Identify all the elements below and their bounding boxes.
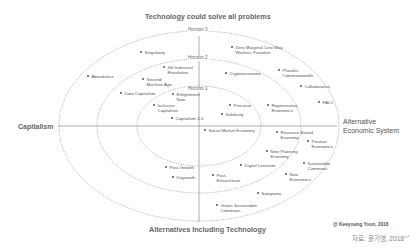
bullet-icon <box>171 117 173 119</box>
item-resource-based-economy: Resource BasedEconomy <box>276 131 313 140</box>
axis-right-label-line2: Economic System <box>343 127 399 134</box>
item-abundance: Abundance <box>87 75 114 80</box>
item-inclusive-capitalism: InclusiveCapitalism <box>153 104 178 113</box>
bullet-icon <box>87 75 89 77</box>
item-second-machine-age: SecondMachine Age <box>142 78 172 87</box>
credit-text: @ Keeyoung Yoon, 2018 <box>333 222 388 227</box>
item-singularity: Singularity <box>140 51 165 56</box>
bullet-icon <box>140 51 142 53</box>
item-enlightenment-now: EnlightmentNow <box>172 93 200 102</box>
item-digital-leninism: Digital Leninism <box>240 164 276 169</box>
bullet-icon <box>212 174 214 176</box>
bullet-icon <box>229 104 231 106</box>
bullet-icon <box>216 204 218 206</box>
item-solidarity: Solidarity <box>221 113 244 118</box>
bullet-icon <box>172 176 174 178</box>
item-post-growth: Post-Growth <box>165 166 194 171</box>
item-falc: FALC <box>318 101 333 106</box>
bullet-icon <box>225 72 227 74</box>
item-cryptoeconomic: Cryptoeconomic <box>225 72 261 77</box>
item-satoyama: Satoyama <box>257 192 281 197</box>
item-pluralist-commonwealth: PluralistCommonwealth <box>278 69 313 78</box>
bullet-icon <box>278 69 280 71</box>
axis-right-label-line1: Alternative <box>343 118 376 125</box>
bullet-icon <box>120 92 122 94</box>
item-new-planning-economy: New PlanningEconomy <box>266 150 298 159</box>
bullet-icon <box>172 93 174 95</box>
bullet-icon <box>303 162 305 164</box>
bullet-icon <box>276 131 278 133</box>
horizon-3-label: Horizon 3 <box>187 28 209 33</box>
bullet-icon <box>267 104 269 106</box>
bullet-icon <box>307 140 309 142</box>
item-social-market-economy: Social Market Economy <box>204 129 255 134</box>
axis-left-label: Capitalism <box>18 123 53 130</box>
item-zero-marginal-cost: Zero Marginal Cost WayWorkers Paradise <box>231 46 283 55</box>
bullet-icon <box>285 173 287 175</box>
bullet-icon <box>204 129 206 131</box>
item-positive-economics: PositiveEconomics <box>307 140 333 149</box>
item-data-capitalism: Data Capitalism <box>120 92 156 97</box>
item-regenerative-economics: RegenerativeEconomics <box>267 104 298 113</box>
horizon-2-label: Horizon 2 <box>187 56 209 61</box>
item-sustainable-commons: SustainableCommons <box>303 162 330 171</box>
item-precariat: Precariat <box>229 104 251 109</box>
bullet-icon <box>163 66 165 68</box>
diagram-canvas: Technology could solve all problems Alte… <box>0 0 416 250</box>
item-green-sustainable-commons: Green SustainableCommons <box>216 204 257 213</box>
title-bottom: Alternatives Including Technology <box>149 226 266 234</box>
item-capitalism-4-0: Capitalism 4.0 <box>171 117 203 122</box>
bullet-icon <box>153 104 155 106</box>
item-collaborative: Collaborative <box>300 85 330 90</box>
bullet-icon <box>318 101 320 103</box>
bullet-icon <box>221 113 223 115</box>
item-4th-industrial-revolution: 4th IndustrialRevolution <box>163 66 193 75</box>
bullet-icon <box>142 78 144 80</box>
bullet-icon <box>165 166 167 168</box>
bullet-icon <box>231 46 233 48</box>
title-top: Technology could solve all problems <box>145 13 271 21</box>
item-post-extractivism: Post-Extractivism <box>212 174 240 183</box>
item-new-economics: NewEconomics <box>285 173 311 182</box>
bullet-icon <box>266 150 268 152</box>
source-text: 자료: 윤기영, 2018SoF <box>352 236 410 243</box>
bullet-icon <box>300 85 302 87</box>
bullet-icon <box>240 164 242 166</box>
item-degrowth: Degrowth <box>172 176 195 181</box>
bullet-icon <box>257 192 259 194</box>
